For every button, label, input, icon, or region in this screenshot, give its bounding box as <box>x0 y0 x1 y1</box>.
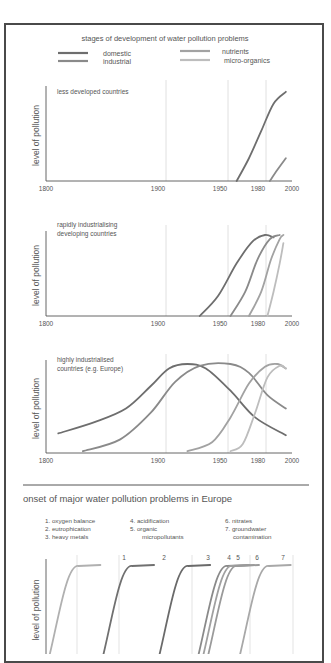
onset-legend-item: 5. organic <box>130 525 157 532</box>
legend-label-domestic: domestic <box>103 50 132 57</box>
y-axis-label: level of pollution <box>31 245 41 306</box>
onset-number-label-6: 6 <box>255 554 259 561</box>
series-line-micro-organics <box>231 365 286 451</box>
y-axis-label: level of pollution <box>31 579 41 640</box>
onset-legend-item: contamination <box>233 533 272 540</box>
panel-onset: level of pollution1234567 <box>31 554 293 654</box>
x-tick-1950: 1950 <box>213 185 228 192</box>
legend: domesticindustrialnutrientsmicro-organic… <box>58 48 270 65</box>
onset-number-label-2: 2 <box>162 554 166 561</box>
x-tick-1900: 1900 <box>151 457 166 464</box>
onset-number-label-7: 7 <box>281 554 285 561</box>
onset-curve-4b <box>202 565 254 654</box>
onset-curve-5 <box>207 565 259 654</box>
panel-subtitle: countries (e.g. Europe) <box>57 365 123 373</box>
panel-subtitle: less developed countries <box>57 88 129 96</box>
onset-number-label-3: 3 <box>206 554 210 561</box>
onset-legend-item: micropollutants <box>142 533 184 540</box>
panel-less-developed: 18001900195019802000level of pollutionle… <box>31 80 300 192</box>
legend-label-industrial: industrial <box>103 58 131 65</box>
onset-title: onset of major water pollution problems … <box>23 493 232 504</box>
panel-rapidly-industrialising: 18001900195019802000level of pollutionra… <box>31 221 300 327</box>
y-axis-label: level of pollution <box>31 378 41 439</box>
onset-number-label-5: 5 <box>236 554 240 561</box>
series-line-micro-organics <box>267 243 283 316</box>
x-tick-1980: 1980 <box>251 185 266 192</box>
onset-number-label-4: 4 <box>227 554 231 561</box>
onset-legend-item: 1. oxygen balance <box>45 517 96 524</box>
x-tick-1800: 1800 <box>39 457 54 464</box>
panel-highly-industrialised: 18001900195019802000level of pollutionhi… <box>31 354 300 464</box>
y-axis-label: level of pollution <box>31 105 41 166</box>
chart-title: stages of development of water pollution… <box>81 34 248 43</box>
onset-legend-item: 2. eutrophication <box>45 525 91 532</box>
legend-label-nutrients: nutrients <box>222 48 249 55</box>
legend-label-micro-organics: micro-organics <box>224 57 270 65</box>
onset-number-label-1: 1 <box>122 554 126 561</box>
onset-legend-item: 7. groundwater <box>225 525 266 532</box>
onset-legend-item: 6. nitrates <box>225 517 252 524</box>
series-line-domestic <box>200 235 274 316</box>
onset-curve-4 <box>197 565 249 654</box>
panel-subtitle: highly industrialised <box>57 356 114 364</box>
onset-curve-1 <box>48 565 100 654</box>
x-tick-1950: 1950 <box>213 320 228 327</box>
x-tick-1900: 1900 <box>151 185 166 192</box>
x-tick-1980: 1980 <box>251 320 266 327</box>
series-line-nutrients <box>187 364 285 451</box>
x-tick-1950: 1950 <box>213 457 228 464</box>
x-tick-1980: 1980 <box>251 457 266 464</box>
panel-subtitle: developing countries <box>57 230 117 238</box>
panel-subtitle: rapidly industrialising <box>57 221 118 229</box>
x-tick-1900: 1900 <box>151 320 166 327</box>
x-tick-2000: 2000 <box>285 320 300 327</box>
x-tick-2000: 2000 <box>285 457 300 464</box>
onset-curve-7 <box>239 565 291 654</box>
onset-legend-item: 4. acidification <box>130 517 170 524</box>
x-tick-1800: 1800 <box>39 320 54 327</box>
onset-curve-2 <box>102 565 154 654</box>
onset-legend: 1. oxygen balance2. eutrophication3. hea… <box>45 517 272 540</box>
onset-legend-item: 3. heavy metals <box>45 533 88 540</box>
x-tick-2000: 2000 <box>285 185 300 192</box>
x-tick-1800: 1800 <box>39 185 54 192</box>
series-line-industrial <box>270 158 286 181</box>
